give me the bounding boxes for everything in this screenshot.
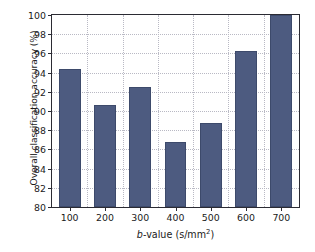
bar — [235, 51, 257, 207]
y-gridline — [52, 73, 299, 74]
x-axis-title-tail: ) — [210, 229, 214, 240]
bar — [129, 87, 151, 207]
y-tick-label: 96 — [34, 48, 46, 59]
x-tick-label: 100 — [61, 212, 79, 223]
y-tick-label: 94 — [34, 67, 46, 78]
x-tick-mark — [281, 207, 282, 211]
y-tick-mark — [48, 53, 52, 54]
y-tick-label: 80 — [34, 202, 46, 213]
y-tick-mark — [48, 15, 52, 16]
x-tick-label: 200 — [96, 212, 114, 223]
x-axis-title: b-value (s/mm2) — [51, 228, 300, 240]
x-gridline — [158, 15, 159, 207]
x-tick-mark — [140, 207, 141, 211]
x-tick-label: 500 — [202, 212, 220, 223]
bar — [270, 15, 292, 207]
plot-area: 1009896949290888684828010020030040050060… — [51, 14, 300, 208]
y-gridline — [52, 34, 299, 35]
x-tick-mark — [70, 207, 71, 211]
x-tick-mark — [176, 207, 177, 211]
x-gridline — [193, 15, 194, 207]
y-tick-label: 82 — [34, 182, 46, 193]
y-tick-mark — [48, 188, 52, 189]
x-tick-label: 300 — [131, 212, 149, 223]
x-gridline — [87, 15, 88, 207]
x-tick-label: 600 — [237, 212, 255, 223]
y-tick-mark — [48, 169, 52, 170]
y-tick-mark — [48, 149, 52, 150]
y-tick-label: 84 — [34, 163, 46, 174]
x-tick-label: 400 — [167, 212, 185, 223]
bar — [94, 105, 116, 207]
y-gridline — [52, 130, 299, 131]
y-gridline — [52, 53, 299, 54]
plot-inner — [52, 15, 299, 207]
x-gridline — [123, 15, 124, 207]
bar — [59, 69, 81, 207]
y-tick-mark — [48, 111, 52, 112]
y-tick-label: 88 — [34, 125, 46, 136]
bar-chart-figure: Overall classification accuracy (%) b-va… — [0, 0, 315, 252]
y-tick-label: 90 — [34, 106, 46, 117]
x-tick-mark — [105, 207, 106, 211]
x-tick-mark — [211, 207, 212, 211]
bar — [165, 142, 187, 207]
y-tick-mark — [48, 130, 52, 131]
y-tick-mark — [48, 92, 52, 93]
x-gridline — [228, 15, 229, 207]
y-tick-label: 92 — [34, 86, 46, 97]
y-tick-label: 100 — [28, 10, 46, 21]
x-gridline — [264, 15, 265, 207]
y-tick-mark — [48, 34, 52, 35]
y-tick-label: 86 — [34, 144, 46, 155]
y-tick-label: 98 — [34, 29, 46, 40]
x-axis-title-rest: -value (s/mm — [143, 229, 206, 240]
bar — [200, 123, 222, 207]
y-tick-mark — [48, 207, 52, 208]
y-gridline — [52, 92, 299, 93]
y-gridline — [52, 111, 299, 112]
y-tick-mark — [48, 73, 52, 74]
x-tick-label: 700 — [272, 212, 290, 223]
x-tick-mark — [246, 207, 247, 211]
